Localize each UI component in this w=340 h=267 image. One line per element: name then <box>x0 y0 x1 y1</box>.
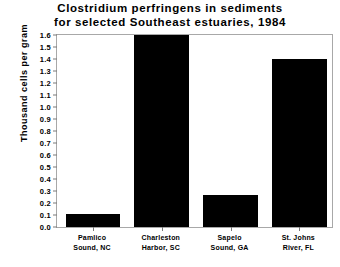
bar <box>66 214 121 227</box>
y-tick-mark <box>53 95 57 96</box>
x-axis-category-label: St. JohnsRiver, FL <box>253 233 340 252</box>
bar <box>203 195 258 227</box>
x-tick-mark <box>162 227 163 231</box>
y-tick-mark <box>53 71 57 72</box>
plot-inner: 0.00.10.20.30.40.50.60.70.80.91.01.11.21… <box>57 35 332 227</box>
y-tick-mark <box>53 47 57 48</box>
y-tick-mark <box>53 131 57 132</box>
y-tick-mark <box>53 119 57 120</box>
x-axis-category-line: River, FL <box>253 243 340 253</box>
y-tick-mark <box>53 227 57 228</box>
y-tick-mark <box>53 179 57 180</box>
y-tick-mark <box>53 143 57 144</box>
y-tick-mark <box>53 83 57 84</box>
plot-area: 0.00.10.20.30.40.50.60.70.80.91.01.11.21… <box>56 34 333 228</box>
y-tick-mark <box>53 59 57 60</box>
x-tick-mark <box>299 227 300 231</box>
y-tick-mark <box>53 215 57 216</box>
y-tick-mark <box>53 107 57 108</box>
y-tick-mark <box>53 35 57 36</box>
bar <box>272 59 327 227</box>
chart-title-line-2: for selected Southeast estuaries, 1984 <box>0 16 340 30</box>
x-tick-mark <box>93 227 94 231</box>
x-tick-mark <box>231 227 232 231</box>
y-tick-mark <box>53 191 57 192</box>
y-tick-mark <box>53 203 57 204</box>
x-axis-category-line: St. Johns <box>253 233 340 243</box>
bar <box>134 35 189 227</box>
y-tick-mark <box>53 167 57 168</box>
chart-title: Clostridium perfringens in sediments for… <box>0 2 340 29</box>
chart-figure: Clostridium perfringens in sediments for… <box>0 0 340 267</box>
chart-title-line-1: Clostridium perfringens in sediments <box>0 2 340 16</box>
y-tick-mark <box>53 155 57 156</box>
y-axis-title: Thousand cells per gram <box>19 3 29 163</box>
